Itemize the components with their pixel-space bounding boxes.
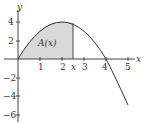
y-tick-4: 4	[8, 17, 14, 27]
area-label: A(x)	[37, 38, 57, 48]
x-tick-x: x	[71, 62, 76, 72]
y-tick-2: 2	[8, 36, 14, 46]
y-tick-neg2: −2	[3, 73, 16, 83]
x-tick-5: 5	[125, 62, 131, 72]
y-axis-label: y	[16, 2, 23, 12]
area-function-plot: y x A(x) 1 2 x 3 4 5 4 2 −2 −4 −6	[0, 0, 142, 124]
y-tick-neg4: −4	[3, 91, 17, 101]
x-tick-1: 1	[38, 62, 44, 72]
x-axis-label: x	[136, 54, 141, 64]
x-tick-4: 4	[102, 62, 108, 72]
x-tick-3: 3	[82, 62, 88, 72]
x-tick-2: 2	[60, 62, 66, 72]
y-tick-neg6: −6	[3, 110, 17, 120]
